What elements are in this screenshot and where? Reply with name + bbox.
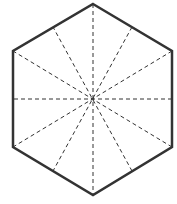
symmetry-lines [13, 4, 172, 195]
hexagon-symmetry-diagram [0, 0, 177, 204]
